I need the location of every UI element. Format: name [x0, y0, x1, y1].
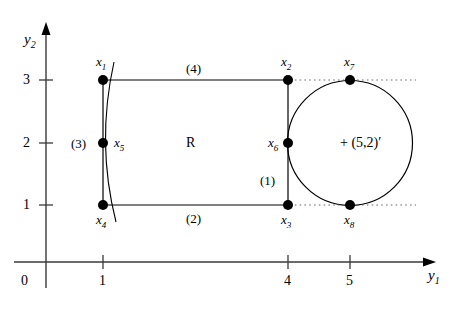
point-label-x8-subscript: 8 [350, 220, 355, 230]
x-axis-arrow-icon [423, 258, 436, 267]
point-marker-x6 [283, 138, 293, 148]
point-label-x7-subscript: 7 [350, 62, 355, 72]
x-axis-label: y1 [428, 268, 440, 286]
point-label-x6: x6 [268, 136, 278, 153]
point-label-x7: x7 [344, 55, 354, 72]
x-axis-label-name: y [428, 267, 435, 283]
point-label-x8: x8 [344, 213, 354, 230]
x-tick-label-4: 4 [284, 274, 291, 288]
y-axis-arrow-icon [42, 22, 51, 35]
point-label-x5: x5 [114, 136, 124, 153]
x-tick-label-1: 1 [99, 274, 106, 288]
circle-center-annotation: + (5,2)′ [340, 136, 381, 150]
y-axis-label-name: y [24, 31, 31, 47]
circle-center-coords: (5,2) [351, 135, 378, 150]
edge-label-3: (3) [71, 137, 86, 150]
x-tick-label-5: 5 [346, 274, 353, 288]
figure-canvas [0, 0, 462, 314]
edge-label-2: (2) [186, 212, 201, 225]
point-label-x3-subscript: 3 [287, 220, 292, 230]
point-label-x1-subscript: 1 [102, 62, 107, 72]
y-axis-group [39, 22, 53, 288]
y-tick-label-2: 2 [23, 136, 30, 150]
point-label-x4: x4 [96, 213, 106, 230]
region-label-R: R [186, 136, 195, 150]
point-label-x3: x3 [281, 213, 291, 230]
origin-label: 0 [21, 274, 28, 288]
y-axis-label: y2 [24, 32, 36, 50]
circle-center-marker-icon: + [340, 135, 348, 150]
point-label-x2: x2 [281, 55, 291, 72]
point-marker-x5 [98, 138, 108, 148]
geometry-figure: y2 y1 0 3 2 1 1 4 5 x1 x2 x3 x4 x5 x6 x7… [0, 0, 462, 314]
point-label-x4-subscript: 4 [102, 220, 107, 230]
point-marker-x7 [345, 75, 355, 85]
point-label-x2-subscript: 2 [287, 62, 292, 72]
point-marker-x1 [98, 75, 108, 85]
y-axis-label-subscript: 2 [31, 39, 36, 50]
x-axis-label-subscript: 1 [435, 275, 440, 286]
point-marker-x8 [345, 200, 355, 210]
y-tick-label-3: 3 [23, 73, 30, 87]
point-label-x5-subscript: 5 [120, 143, 125, 153]
point-label-x1: x1 [96, 55, 106, 72]
edge-label-1: (1) [260, 174, 275, 187]
point-label-x6-subscript: 6 [274, 143, 279, 153]
point-marker-x2 [283, 75, 293, 85]
circle-center-prime: ′ [378, 135, 381, 150]
point-marker-x3 [283, 200, 293, 210]
edge-label-4: (4) [186, 62, 201, 75]
point-markers [98, 75, 355, 210]
y-tick-label-1: 1 [23, 198, 30, 212]
point-marker-x4 [98, 200, 108, 210]
x-axis-group [14, 255, 436, 269]
